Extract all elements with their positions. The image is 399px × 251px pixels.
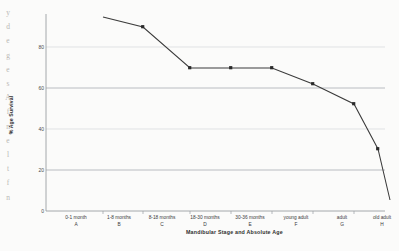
x-tick-category-C: 8-18 months [149,215,176,220]
x-tick-category-D: 18-30 months [190,215,219,220]
x-tick-category-B: 1-8 months [107,215,131,220]
data-point-E [270,66,273,69]
x-tick-stage-H: H [355,221,399,228]
x-tick-category-G: adult [337,215,347,220]
x-axis-title: Mandibular Stage and Absolute Age [186,229,283,235]
x-tick-category-F: young adult [284,215,309,220]
data-point-D [229,66,232,69]
x-tick-category-E: 30-36 months [235,215,264,220]
data-point-H [376,147,379,150]
data-point-C [188,66,191,69]
x-tick-category-A: 0-1 month [65,215,87,220]
data-point-B [141,25,144,28]
x-tick-label-H: old adult H [355,214,399,229]
data-point-F [311,82,314,85]
x-tick-category-H: old adult [373,215,391,220]
data-point-G [352,102,355,105]
survival-line [103,17,390,200]
survival-line-chart: % Age Survival 80 60 40 20 0 [0,0,399,251]
page-background: y d e g e s A f n e l t f n % Age Surviv… [0,0,399,251]
